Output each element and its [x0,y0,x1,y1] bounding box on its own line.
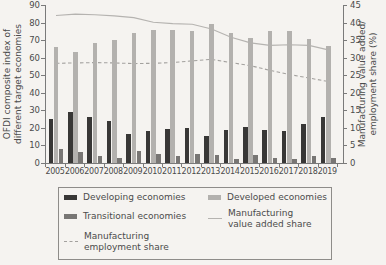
legend-solid-line-swatch-icon [208,218,222,219]
bar-developed-economies [229,33,234,163]
legend-item-manufacturing-value-added-share: Manufacturingvalue added share [208,208,311,229]
bar-developing-economies [126,134,131,163]
left-axis-tick-label: 70 [18,35,40,45]
bar-transitional-economies [59,149,64,163]
x-axis-tick [201,164,202,167]
x-axis-tick [259,164,260,167]
right-axis-tick [343,40,347,41]
left-axis-tick [41,40,45,41]
bar-developing-economies [185,128,190,163]
legend-label: Manufacturingemployment share [84,231,169,252]
bar-developing-economies [301,124,306,163]
bar-transitional-economies [78,152,83,163]
bar-developing-economies [224,130,229,163]
x-axis-tick [298,164,299,167]
bar-transitional-economies [156,154,161,163]
right-axis-tick-label: 25 [350,70,372,80]
right-axis-tick [343,128,347,129]
bar-developed-economies [248,38,253,163]
right-axis-tick-label: 45 [350,0,372,10]
left-axis-tick [41,110,45,111]
bar-developed-economies [326,46,331,163]
plot-area [45,5,344,164]
bar-transitional-economies [292,159,297,163]
left-axis-tick-label: 20 [18,123,40,133]
left-axis-tick [41,93,45,94]
left-axis-tick-label: 80 [18,18,40,28]
left-axis-tick-label: 40 [18,88,40,98]
x-axis-tick [337,164,338,167]
bar-developing-economies [107,121,112,163]
left-axis-tick-label: 10 [18,140,40,150]
legend-label: Developed economies [227,192,327,203]
bar-transitional-economies [215,155,220,163]
bar-transitional-economies [195,154,200,163]
x-axis-tick [220,164,221,167]
right-axis-tick [343,145,347,146]
left-axis-tick-label: 60 [18,53,40,63]
right-axis-tick-label: 40 [350,18,372,28]
legend-item-manufacturing-employment-share: Manufacturingemployment share [64,231,169,252]
bar-developing-economies [262,130,267,163]
left-axis-tick-label: 90 [18,0,40,10]
bar-transitional-economies [137,151,142,163]
bar-transitional-economies [253,155,258,163]
bar-developed-economies [54,47,59,163]
x-axis-tick [123,164,124,167]
left-axis-tick [41,128,45,129]
right-axis-tick-label: 35 [350,35,372,45]
bar-transitional-economies [98,156,103,163]
right-axis-tick [343,110,347,111]
left-axis-tick [41,145,45,146]
bar-developing-economies [282,131,287,163]
bar-developed-economies [151,30,156,163]
bar-transitional-economies [117,158,122,163]
bar-transitional-economies [273,158,278,163]
x-axis-tick [45,164,46,167]
bar-transitional-economies [234,159,239,163]
x-axis-tick [143,164,144,167]
right-axis-tick [343,93,347,94]
x-axis-tick [162,164,163,167]
ofdi-composite-index-chart: OFDI composite index of different target… [0,0,386,265]
x-axis-tick [104,164,105,167]
right-axis-tick-label: 5 [350,140,372,150]
right-axis-tick-label: 20 [350,88,372,98]
right-axis-tick [343,23,347,24]
left-axis-tick-label: 50 [18,70,40,80]
legend-item-transitional-economies: Transitional economies [64,211,186,222]
legend-label: Developing economies [83,192,186,203]
legend-item-developed-economies: Developed economies [208,192,327,203]
x-axis-tick [181,164,182,167]
bar-transitional-economies [176,156,181,163]
right-axis-tick [343,5,347,6]
x-axis-label: 2019 [316,167,338,177]
left-axis-tick-label: 30 [18,105,40,115]
right-axis-tick [343,163,347,164]
left-axis-tick-label: 0 [18,158,40,168]
legend-label: Manufacturingvalue added share [228,208,311,229]
right-axis-tick-label: 10 [350,123,372,133]
right-axis-tick [343,58,347,59]
left-axis-tick [41,75,45,76]
bar-developing-economies [204,136,209,163]
bar-transitional-economies [312,156,317,163]
bar-developed-economies [93,43,98,163]
bar-transitional-economies [331,158,336,163]
left-axis-title-line1: OFDI composite index of [2,4,13,164]
bar-developed-economies [112,40,117,163]
legend-bar-swatch-icon [64,214,77,219]
legend-bar-swatch-icon [64,195,77,200]
bar-developed-economies [268,31,273,163]
x-axis-tick [84,164,85,167]
right-axis-tick-label: 15 [350,105,372,115]
bar-developed-economies [287,31,292,163]
bar-developed-economies [307,39,312,163]
bar-developed-economies [170,30,175,163]
bar-developing-economies [87,117,92,163]
bar-developing-economies [165,129,170,163]
x-axis-tick [65,164,66,167]
bar-developed-economies [132,33,137,163]
x-axis-tick [279,164,280,167]
legend-dashed-line-swatch-icon [64,241,78,242]
